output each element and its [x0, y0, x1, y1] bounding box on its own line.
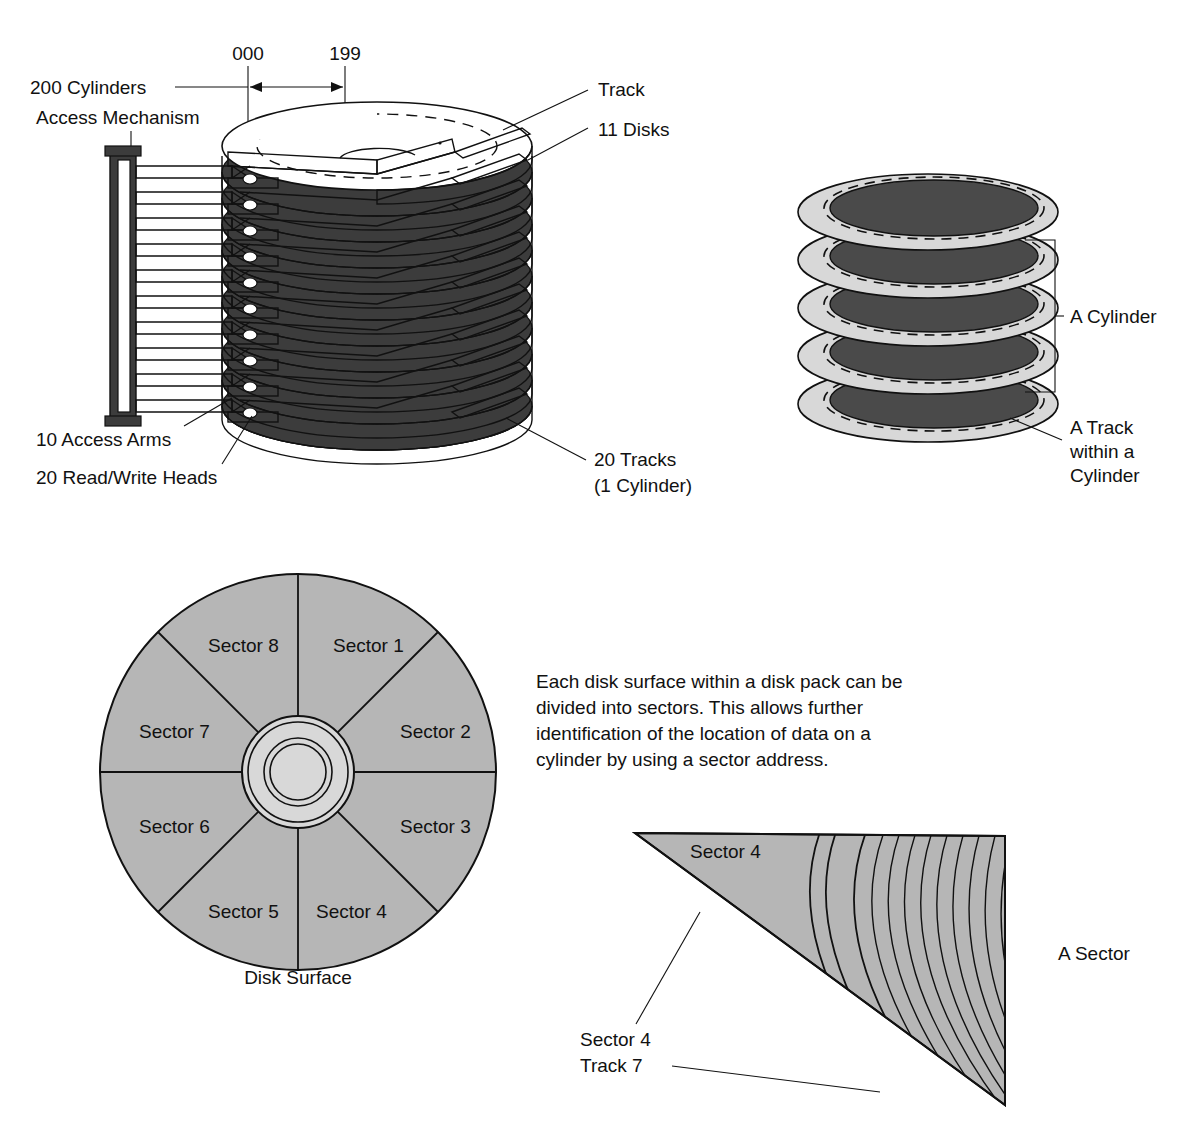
label-a-track-line1: A Track [1070, 417, 1134, 438]
label-20-tracks: 20 Tracks [594, 449, 676, 470]
sector-label-8: Sector 8 [208, 635, 279, 656]
read-write-head [243, 174, 257, 184]
read-write-head [243, 200, 257, 210]
sector-label-3: Sector 3 [400, 816, 471, 837]
label-a-track-line2: within a [1069, 441, 1135, 462]
explanation-line-3: identification of the location of data o… [536, 723, 871, 744]
platter-stack [222, 102, 532, 464]
explanation-line-4: cylinder by using a sector address. [536, 749, 829, 770]
wedge-inline-label: Sector 4 [690, 841, 761, 862]
label-a-sector: A Sector [1058, 943, 1130, 964]
cylinder-low-address-label: 000 [232, 43, 264, 64]
label-a-cylinder: A Cylinder [1070, 306, 1157, 327]
read-write-head [243, 382, 257, 392]
disk-hub [242, 716, 354, 828]
figure-background [0, 0, 1184, 1124]
sector-label-1: Sector 1 [333, 635, 404, 656]
read-write-head [243, 278, 257, 288]
cylinder-high-address-label: 199 [329, 43, 361, 64]
disk-architecture-figure: 000 199 200 Cylinders Access Mechanism [0, 0, 1184, 1124]
read-write-head [243, 408, 257, 418]
label-track: Track [598, 79, 645, 100]
label-a-track-line3: Cylinder [1070, 465, 1140, 486]
sector-label-5: Sector 5 [208, 901, 279, 922]
explanation-line-1: Each disk surface within a disk pack can… [536, 671, 902, 692]
read-write-head [243, 304, 257, 314]
read-write-head [243, 356, 257, 366]
callout-track-7: Track 7 [580, 1055, 643, 1076]
sector-label-6: Sector 6 [139, 816, 210, 837]
label-20-heads: 20 Read/Write Heads [36, 467, 217, 488]
carriage-rail [118, 160, 130, 412]
read-write-head [243, 252, 257, 262]
callout-sector-4: Sector 4 [580, 1029, 651, 1050]
sector-label-4: Sector 4 [316, 901, 387, 922]
label-11-disks: 11 Disks [598, 119, 669, 140]
cylinder-platter-1 [798, 174, 1058, 250]
read-write-head [243, 330, 257, 340]
sector-label-7: Sector 7 [139, 721, 210, 742]
label-access-mechanism: Access Mechanism [36, 107, 200, 128]
explanation-line-2: divided into sectors. This allows furthe… [536, 697, 864, 718]
label-one-cylinder: (1 Cylinder) [594, 475, 692, 496]
read-write-head [243, 226, 257, 236]
label-200-cylinders: 200 Cylinders [30, 77, 146, 98]
disk-surface-caption: Disk Surface [244, 967, 352, 988]
label-10-access-arms: 10 Access Arms [36, 429, 171, 450]
sector-label-2: Sector 2 [400, 721, 471, 742]
